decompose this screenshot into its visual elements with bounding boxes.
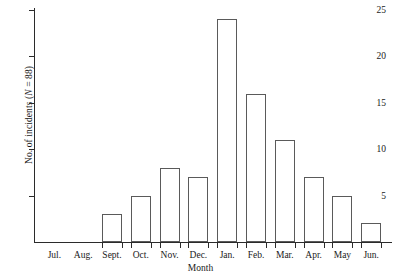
y-axis-tick-label: 25 — [377, 5, 387, 15]
y-axis-tick — [29, 56, 34, 57]
x-axis-tick-label: May — [334, 250, 351, 260]
y-axis-title-suffix: = 88) — [24, 66, 34, 89]
x-axis-tick — [275, 243, 276, 248]
x-axis-tick-label: Jan. — [220, 250, 235, 260]
x-axis-tick — [188, 243, 189, 248]
x-axis-tick-label: Mar. — [276, 250, 294, 260]
bar — [304, 177, 324, 242]
bar — [332, 196, 352, 242]
x-axis-tick — [151, 243, 152, 248]
bar — [188, 177, 208, 242]
x-axis-tick — [361, 243, 362, 248]
bar — [246, 94, 266, 242]
x-axis-tick — [208, 243, 209, 248]
y-axis-tick-label: 5 — [381, 191, 386, 201]
x-axis-tick — [122, 243, 123, 248]
x-axis-tick-label: Jul. — [48, 250, 61, 260]
y-axis-tick-label: 10 — [377, 144, 387, 154]
y-axis-line — [34, 8, 35, 243]
x-axis-tick — [246, 243, 247, 248]
y-axis-title: No. of incidents (N = 88) — [24, 25, 34, 205]
x-axis-tick-label: Nov. — [161, 250, 179, 260]
x-axis-tick — [180, 243, 181, 248]
bar — [131, 196, 151, 242]
bar — [217, 19, 237, 242]
x-axis-tick-label: Apr. — [305, 250, 322, 260]
x-axis-tick — [295, 243, 296, 248]
y-axis-tick — [29, 10, 34, 11]
x-axis-tick-label: Jun. — [363, 250, 379, 260]
x-axis-tick — [237, 243, 238, 248]
y-axis-tick-label: 20 — [377, 51, 387, 61]
x-axis-tick-label: Dec. — [190, 250, 208, 260]
x-axis-tick — [266, 243, 267, 248]
x-axis-title: Month — [0, 263, 401, 273]
y-axis-tick — [29, 196, 34, 197]
x-axis-tick — [217, 243, 218, 248]
x-axis-tick-label: Sept. — [102, 250, 121, 260]
x-axis-tick — [332, 243, 333, 248]
y-axis-tick — [29, 103, 34, 104]
bar — [361, 223, 381, 242]
x-axis-tick — [102, 243, 103, 248]
bar — [102, 214, 122, 242]
x-axis-tick — [131, 243, 132, 248]
y-axis-tick-label: 15 — [377, 98, 387, 108]
x-axis-tick-label: Oct. — [133, 250, 149, 260]
bar — [275, 140, 295, 242]
plot-area: 510152025 Jul.Aug.Sept.Oct.Nov.Dec.Jan.F… — [34, 0, 394, 243]
x-axis-tick — [160, 243, 161, 248]
bar-chart: No. of incidents (N = 88) 510152025 Jul.… — [0, 0, 401, 277]
x-axis-tick-label: Feb. — [248, 250, 265, 260]
y-axis-tick — [29, 149, 34, 150]
y-axis-title-n-symbol: N — [24, 89, 34, 95]
x-axis-tick-label: Aug. — [74, 250, 93, 260]
x-axis-tick — [324, 243, 325, 248]
x-axis-tick — [304, 243, 305, 248]
x-axis-tick — [352, 243, 353, 248]
y-axis-title-prefix: No. of incidents ( — [24, 96, 34, 164]
bar — [160, 168, 180, 242]
x-axis-line — [34, 242, 392, 243]
x-axis-tick — [381, 243, 382, 248]
